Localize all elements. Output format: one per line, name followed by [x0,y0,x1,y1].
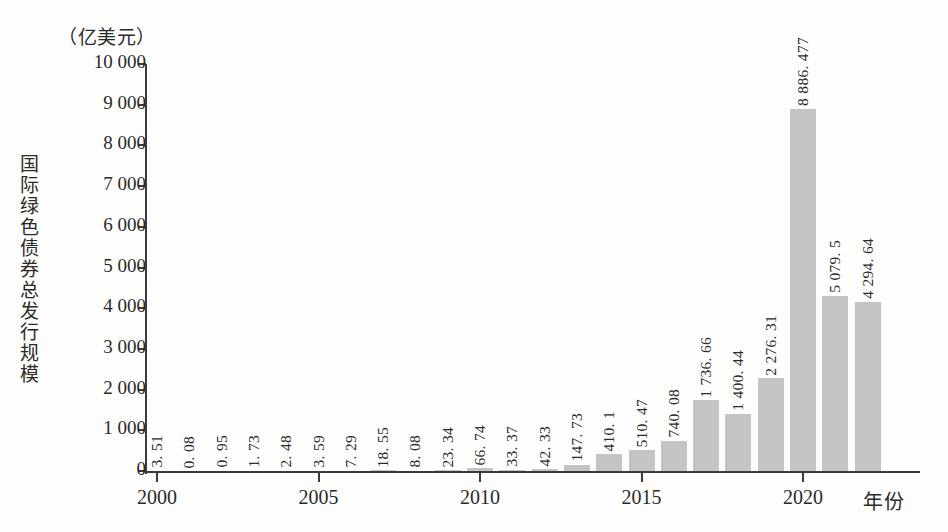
y-tick-label: 4 000 [68,295,146,317]
bar [532,469,558,471]
bar-value-label: 740. 08 [666,389,682,438]
x-tick-label: 2000 [137,486,177,509]
bar [855,302,881,471]
bar [564,465,590,471]
bar [370,470,396,471]
y-tick-label: 1 000 [68,417,146,439]
bar-value-label: 510. 47 [634,399,650,448]
bar-value-label: 4 294. 64 [860,238,876,299]
bar-value-label: 33. 37 [504,426,520,467]
bar-value-label: 8. 08 [407,435,423,468]
bar-value-label: 18. 55 [375,427,391,468]
x-tick-label: 2005 [299,486,339,509]
bar-value-label: 1 400. 44 [730,350,746,411]
bar [822,296,848,471]
y-axis-line [145,64,147,474]
bar-value-label: 0. 95 [214,435,230,468]
bar-value-label: 5 079. 5 [827,240,843,293]
y-tick-label: 8 000 [68,132,146,154]
y-axis-unit-caption: （亿美元） [58,22,156,49]
y-tick-label: 0 [68,458,146,480]
bar-value-label: 3. 59 [311,435,327,468]
bar [661,441,687,471]
x-tick-mark [641,473,643,482]
x-tick-label: 2020 [783,486,823,509]
bar-value-label: 147. 73 [569,413,585,462]
bar [790,109,816,471]
x-tick-mark [156,473,158,482]
bar-value-label: 2 276. 31 [763,315,779,376]
bar-value-label: 66. 74 [472,425,488,466]
bar [725,414,751,471]
bar [435,470,461,471]
x-tick-label: 2010 [460,486,500,509]
x-tick-mark [479,473,481,482]
x-tick-mark [802,473,804,482]
y-tick-label: 9 000 [68,92,146,114]
bar-value-label: 8 886. 477 [795,37,811,106]
y-tick-label: 2 000 [68,377,146,399]
y-tick-label: 7 000 [68,173,146,195]
bar-value-label: 3. 51 [149,435,165,468]
x-axis-title: 年份 [863,486,905,515]
y-tick-label: 10 000 [68,51,146,73]
x-tick-label: 2015 [622,486,662,509]
y-tick-label: 3 000 [68,336,146,358]
bar-value-label: 410. 1 [601,411,617,452]
y-tick-label: 6 000 [68,214,146,236]
bar [499,470,525,471]
bar-value-label: 23. 34 [440,427,456,468]
bar [693,400,719,471]
bar-value-label: 2. 48 [278,435,294,468]
x-tick-mark [318,473,320,482]
y-axis-title: 国际绿色债券总发行规模 [14,66,42,472]
bar [629,450,655,471]
bar [758,378,784,471]
bar-value-label: 1. 73 [246,435,262,468]
bar-value-label: 7. 29 [343,435,359,468]
bar-chart-figure: （亿美元） 国际绿色债券总发行规模 01 0002 0003 0004 0005… [0,0,948,532]
bar [467,468,493,471]
bar [596,454,622,471]
bar-value-label: 1 736. 66 [698,337,714,398]
y-tick-label: 5 000 [68,255,146,277]
bar-value-label: 42. 33 [537,426,553,467]
bar-value-label: 0. 08 [181,436,197,469]
